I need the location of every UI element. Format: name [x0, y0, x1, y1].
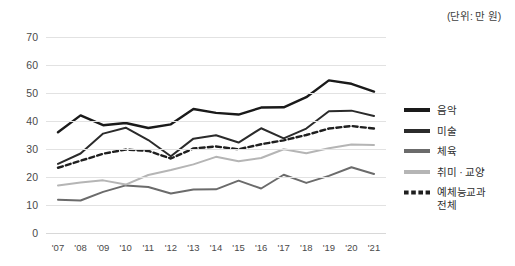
y-axis-tick-40: 40: [26, 115, 38, 127]
series-line-음악: [58, 80, 374, 132]
line-chart: (단위: 만 원) 010203040506070'07'08'09'10'11…: [0, 0, 515, 266]
x-axis-tick-07: '07: [52, 242, 64, 253]
legend-swatch-icon: [404, 129, 430, 133]
x-axis-tick-10: '10: [120, 242, 132, 253]
x-axis-tick-13: '13: [187, 242, 199, 253]
legend-swatch-icon: [404, 170, 430, 174]
legend-label: 미술: [437, 125, 457, 138]
gridline-40: [46, 121, 386, 122]
gridline-50: [46, 93, 386, 94]
gridline-30: [46, 149, 386, 150]
chart-legend: 음악미술체육취미 · 교양예체능교과 전체: [404, 104, 512, 211]
legend-swatch-icon: [404, 190, 430, 194]
y-axis-tick-50: 50: [26, 87, 38, 99]
x-axis-tick-21: '21: [368, 242, 380, 253]
gridline-20: [46, 177, 386, 178]
legend-label: 예체능교과 전체: [437, 186, 486, 211]
y-axis-tick-10: 10: [26, 199, 38, 211]
x-axis-tick-17: '17: [278, 242, 290, 253]
y-axis-tick-30: 30: [26, 143, 38, 155]
legend-item-체육[interactable]: 체육: [404, 145, 512, 158]
x-axis-tick-08: '08: [74, 242, 86, 253]
x-axis-tick-11: '11: [142, 242, 154, 253]
y-axis-tick-20: 20: [26, 171, 38, 183]
legend-label: 취미 · 교양: [437, 166, 485, 179]
plot-area: 010203040506070'07'08'09'10'11'12'13'14'…: [46, 37, 386, 233]
legend-swatch-icon: [404, 149, 430, 153]
x-axis-tick-14: '14: [210, 242, 222, 253]
y-axis-tick-0: 0: [32, 227, 38, 239]
x-axis-tick-19: '19: [323, 242, 335, 253]
gridline-60: [46, 65, 386, 66]
unit-note: (단위: 만 원): [447, 8, 501, 23]
x-axis-tick-18: '18: [300, 242, 312, 253]
x-axis-tick-16: '16: [255, 242, 267, 253]
series-line-체육: [58, 167, 374, 200]
y-axis-tick-60: 60: [26, 59, 38, 71]
series-lines: [46, 37, 386, 233]
legend-item-예체능교과전체[interactable]: 예체능교과 전체: [404, 186, 512, 211]
legend-label: 음악: [437, 104, 457, 117]
legend-item-음악[interactable]: 음악: [404, 104, 512, 117]
series-line-취미교양: [58, 145, 374, 186]
gridline-0: [46, 233, 386, 234]
x-axis-tick-20: '20: [345, 242, 357, 253]
x-axis-tick-09: '09: [97, 242, 109, 253]
legend-item-미술[interactable]: 미술: [404, 125, 512, 138]
legend-label: 체육: [437, 145, 457, 158]
legend-item-취미교양[interactable]: 취미 · 교양: [404, 166, 512, 179]
x-axis-tick-15: '15: [232, 242, 244, 253]
gridline-70: [46, 37, 386, 38]
x-axis-tick-12: '12: [165, 242, 177, 253]
gridline-10: [46, 205, 386, 206]
y-axis-tick-70: 70: [26, 31, 38, 43]
legend-swatch-icon: [404, 108, 430, 112]
